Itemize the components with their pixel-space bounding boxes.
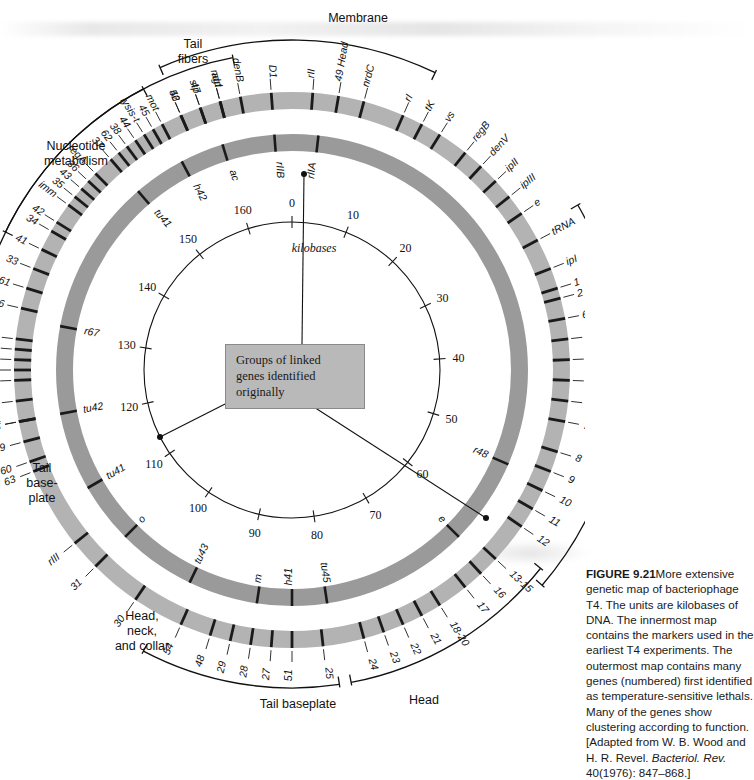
outer-ring-leader <box>498 171 506 178</box>
outer-ring-leader <box>137 123 143 132</box>
scale-tick-label: 20 <box>400 241 412 255</box>
outer-ring-label: 17 <box>475 599 492 617</box>
outer-ring-leader <box>385 635 389 645</box>
outer-ring-label: denV <box>486 131 512 158</box>
outer-ring-label: 8 <box>574 451 583 464</box>
outer-ring-leader <box>5 422 16 424</box>
outer-ring-leader <box>545 492 555 497</box>
outer-ring-label: cef <box>0 419 3 434</box>
outer-ring-leader <box>339 82 341 93</box>
center-pointer-dot <box>483 515 489 521</box>
outer-ring-leader <box>270 650 271 661</box>
outer-ring-leader <box>10 443 21 446</box>
group-bracket-arc <box>578 205 585 345</box>
outer-ring-label: 41 <box>14 231 30 247</box>
middle-ring-label: ac <box>228 168 243 183</box>
center-pointer-line <box>302 174 304 344</box>
group-bracket-line: and collar <box>115 639 169 653</box>
caption-text: More extensive genetic map of bacterioph… <box>586 567 754 764</box>
scale-tick <box>205 487 212 497</box>
outer-ring-leader <box>206 639 209 650</box>
group-bracket-cap <box>338 677 340 688</box>
middle-ring-label: o <box>135 512 148 525</box>
group-bracket-label: Nucleotidemetabolism <box>44 139 108 168</box>
group-bracket-line: Tail <box>33 461 52 475</box>
outer-ring-label: 51 <box>282 670 294 682</box>
outer-ring-leader <box>20 263 30 267</box>
outer-ring-leader <box>216 88 219 99</box>
outer-ring-leader <box>270 79 271 90</box>
outer-ring-tick <box>553 380 570 381</box>
outer-ring-leader <box>524 206 533 212</box>
outer-ring-leader <box>1 348 12 349</box>
outer-ring-tick <box>16 399 33 401</box>
outer-ring-label: 21 <box>428 630 445 647</box>
outer-ring-leader <box>524 528 533 534</box>
scale-tick-label: 110 <box>145 457 163 471</box>
outer-ring-leader <box>571 337 582 338</box>
group-bracket-label: Tailbase-plate <box>26 461 57 505</box>
outer-ring-label: 9 <box>567 472 577 485</box>
outer-ring-label: 22 <box>408 640 424 657</box>
middle-ring-label: tu42 <box>82 399 104 415</box>
outer-ring-label: 29 <box>214 660 229 675</box>
group-bracket-label: Membrane <box>328 11 388 25</box>
outer-ring-leader <box>156 112 161 122</box>
outer-ring-leader <box>57 197 66 204</box>
middle-ring-tick <box>274 135 275 152</box>
middle-ring-label: rIIA <box>304 162 318 180</box>
outer-ring-leader <box>175 628 179 638</box>
outer-ring-leader <box>540 234 550 239</box>
group-bracket-label: Tail baseplate <box>260 697 336 711</box>
caption-journal: Bacteriol. Rev. <box>652 751 727 764</box>
middle-ring-label: tu45 <box>319 561 334 583</box>
scale-tick-label: 30 <box>436 291 448 305</box>
outer-ring-leader <box>498 561 506 568</box>
outer-ring-label: rIII <box>45 550 62 567</box>
outer-ring-label: 16 <box>492 584 509 601</box>
outer-ring-tick <box>14 360 31 361</box>
outer-ring-tick <box>321 629 323 646</box>
outer-ring-tick <box>312 93 313 110</box>
outer-ring-label: 64 <box>581 306 585 320</box>
scale-tick-label: 90 <box>249 526 261 540</box>
outer-ring-label: 28 <box>236 665 250 679</box>
outer-ring-tick <box>16 339 33 341</box>
outer-ring-tick <box>551 399 568 401</box>
middle-ring-label: tu41 <box>103 461 127 482</box>
outer-ring-leader <box>404 628 408 638</box>
scale-tick-label: 100 <box>189 501 207 515</box>
center-pointer-dot <box>301 171 307 177</box>
middle-ring-label: h41 <box>282 568 294 586</box>
outer-ring-label: agt <box>210 71 226 89</box>
group-bracket-line: metabolism <box>44 154 108 168</box>
outer-ring-leader <box>238 83 240 94</box>
outer-ring-leader <box>563 294 574 297</box>
group-bracket-line: Tail <box>184 37 203 51</box>
figure-caption: FIGURE 9.21More extensive genetic map of… <box>586 566 754 780</box>
scale-tick-label: 50 <box>446 412 458 426</box>
outer-ring-leader <box>442 608 448 617</box>
scale-tick-label: 80 <box>311 528 323 542</box>
outer-ring-leader <box>45 215 54 221</box>
outer-ring-label: ipIII <box>517 171 538 191</box>
outer-ring-leader <box>2 401 13 402</box>
scale-tick <box>434 358 446 359</box>
outer-ring-label: 47 <box>188 80 204 96</box>
center-annotation-box: Groups of linked genes identified origin… <box>225 344 365 409</box>
outer-ring-label: 58-61 <box>0 269 12 288</box>
scale-tick-label: 0 <box>289 196 295 210</box>
center-pointer-line <box>160 400 233 437</box>
outer-ring-label: rII <box>304 68 317 78</box>
outer-ring-tick <box>14 380 31 381</box>
outer-ring-leader <box>442 123 448 132</box>
outer-ring-leader <box>483 576 490 584</box>
outer-ring-label: 24 <box>366 656 381 672</box>
outer-ring-leader <box>467 590 474 599</box>
caption-text2: 40(1976): 847–868.] <box>586 766 690 779</box>
scale-tick-label: 150 <box>179 232 197 246</box>
outer-ring-tick <box>271 93 272 110</box>
outer-ring-leader <box>313 79 314 90</box>
outer-ring-label: 23 <box>388 649 404 665</box>
